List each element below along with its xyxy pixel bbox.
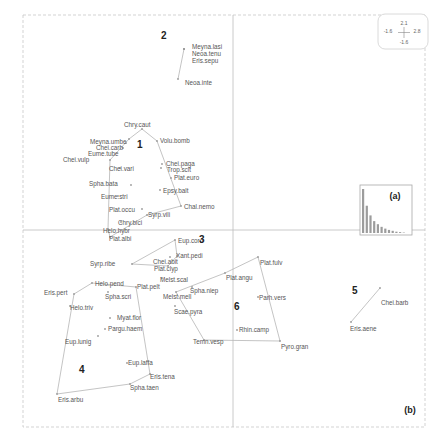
species-point (279, 340, 281, 342)
inset-bar (362, 189, 364, 233)
group-label-3: 3 (199, 234, 205, 245)
group-label-2: 2 (161, 30, 167, 41)
species-label: Temn.vesp (193, 338, 224, 346)
species-label: Melst.scal (160, 276, 188, 283)
species-point (130, 184, 132, 186)
species-point (109, 317, 111, 319)
species-label: Scae.pyra (174, 308, 203, 316)
species-label: Chei.vari (109, 165, 134, 172)
species-label: Chei.abit (153, 258, 178, 265)
species-label: Myat.flor (117, 314, 141, 322)
species-point (174, 305, 176, 307)
species-point (183, 48, 185, 50)
ordination-plot: Chry.cautVolu.bombMeyna.umbeChei.carbEum… (0, 0, 443, 446)
species-label: Helo.triv (70, 304, 94, 311)
species-label: Plat.albi (109, 235, 131, 242)
species-label: Syrp.ribe (90, 260, 116, 268)
inset-bar (369, 215, 371, 233)
species-label: Pargu.haem (108, 325, 142, 333)
species-point (159, 189, 161, 191)
species-label: Eup.laffa (128, 359, 153, 367)
species-point (236, 329, 238, 331)
species-point (141, 128, 143, 130)
inset-bar (395, 232, 397, 233)
species-label: Melst.mell (163, 293, 191, 300)
species-label: Trop.scit (167, 166, 191, 174)
species-label: Plat.occu (109, 206, 135, 213)
species-label: Plat.angu (226, 274, 253, 282)
group-label-5: 5 (352, 285, 358, 296)
inset-bar (366, 206, 368, 233)
species-label: Neoa.inte (185, 79, 212, 86)
species-point (180, 205, 182, 207)
inset-bar (377, 224, 379, 233)
group-label-4: 4 (79, 364, 85, 375)
inset-bar (399, 232, 401, 233)
inset-bar (373, 221, 375, 233)
species-label: Chry.bici (118, 219, 142, 227)
species-label: Spha.bata (89, 180, 118, 188)
species-label: Plat.pelt (137, 283, 160, 291)
species-label: Eume.stri (101, 193, 128, 200)
scale-bottom: -1.6 (400, 39, 409, 45)
species-label: Eris.tena (150, 373, 175, 380)
species-point (73, 293, 75, 295)
inset-bar (381, 227, 383, 233)
species-point (56, 393, 58, 395)
species-point (91, 282, 93, 284)
species-point (170, 177, 172, 179)
scale-left: -1.6 (384, 28, 393, 34)
species-point (104, 328, 106, 330)
inset-bar (392, 231, 394, 233)
species-label: Syrp.vili (148, 211, 170, 219)
species-label: Volu.bomb (160, 137, 190, 144)
species-label: Chei.barb (381, 299, 409, 306)
species-point (141, 208, 143, 210)
inset-label: (a) (390, 191, 401, 201)
species-label: Epsy.balt (163, 187, 189, 195)
species-label: Chal.nemo (184, 203, 215, 210)
species-point (131, 263, 133, 265)
species-label: Eris.arbu (58, 396, 84, 403)
group-label-6: 6 (234, 301, 240, 312)
species-label: Eris.pert (44, 289, 68, 297)
species-label: Plat.euro (174, 174, 200, 181)
species-labels: Chry.cautVolu.bombMeyna.umbeChei.carbEum… (44, 43, 409, 403)
hull-group-2 (178, 49, 184, 79)
species-label: Eume.tube (88, 150, 119, 157)
species-label: Spha.taen (130, 384, 159, 392)
species-point (128, 138, 130, 140)
scale-box: 2.1 -1.6 2.8 -1.6 (378, 14, 428, 49)
species-point (156, 140, 158, 142)
species-label: Spha.scri (105, 293, 131, 301)
species-label: Chry.caut (124, 121, 151, 129)
group-labels: 123456 (79, 30, 358, 375)
inset-bar (388, 230, 390, 233)
species-label: Neoa.tenu (192, 50, 222, 57)
species-point (174, 239, 176, 241)
species-label: Eup.lunig (65, 338, 92, 346)
species-label: Plat.fulv (260, 259, 283, 266)
species-label: Pyro.gran (281, 343, 309, 351)
species-label: Eris.aene (350, 325, 377, 332)
species-point (177, 78, 179, 80)
panel-label: (b) (404, 405, 416, 415)
species-point (350, 321, 352, 323)
species-label: Parh.vers (259, 294, 286, 301)
species-label: Helo.pend (95, 280, 124, 288)
species-label: Plat.clyp (154, 265, 178, 273)
species-label: Chei.vulp (63, 156, 90, 164)
inset-bar (384, 229, 386, 233)
species-point (257, 256, 259, 258)
species-label: Spha.niep (190, 287, 219, 295)
species-point (97, 335, 99, 337)
eigenvalue-inset: (a) (360, 185, 412, 235)
species-point (379, 287, 381, 289)
species-point (109, 159, 111, 161)
group-label-1: 1 (137, 139, 143, 150)
species-label: Xant.pedi (176, 252, 203, 260)
species-point (161, 163, 163, 165)
species-point (160, 167, 162, 169)
species-label: Eris.sepu (192, 57, 219, 65)
scale-right: 2.8 (414, 28, 421, 34)
